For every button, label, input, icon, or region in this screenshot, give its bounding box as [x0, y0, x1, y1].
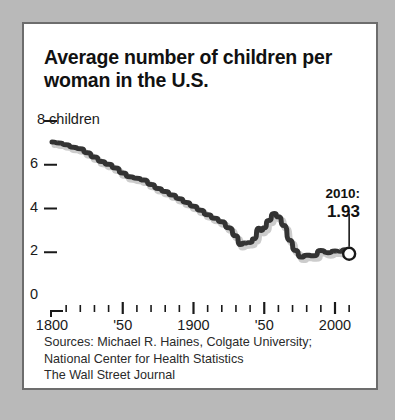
annotation-2010: 2010: 1.93	[325, 186, 360, 222]
y-axis-tick-label: 4	[24, 199, 38, 215]
source-line-3: The Wall Street Journal	[44, 367, 312, 384]
x-axis-tick-label: 1900	[177, 317, 209, 333]
endpoint-marker-icon	[343, 248, 355, 260]
y-axis-tick-label: 8 children	[37, 111, 100, 127]
chart-frame: Average number of children per woman in …	[22, 22, 378, 390]
y-axis-tick-label: 6	[24, 155, 38, 171]
x-axis-tick-label: '50	[255, 317, 274, 333]
fertility-rate-line	[52, 142, 349, 257]
y-axis-tick-label: 2	[24, 242, 38, 258]
source-line-1: Sources: Michael R. Haines, Colgate Univ…	[44, 334, 312, 351]
x-axis-tick-label: 2000	[319, 317, 351, 333]
x-axis-tick-label: '50	[113, 317, 132, 333]
annotation-year: 2010:	[325, 186, 360, 202]
annotation-value: 1.93	[325, 202, 360, 222]
x-axis-tick-label: 1800	[36, 317, 68, 333]
source-line-2: National Center for Health Statistics	[44, 351, 312, 368]
sources-block: Sources: Michael R. Haines, Colgate Univ…	[44, 334, 312, 384]
y-axis-tick-label: 0	[24, 286, 38, 302]
